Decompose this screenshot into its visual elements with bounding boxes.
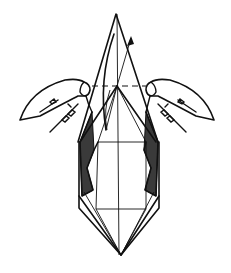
center-crease bbox=[117, 14, 119, 255]
origami-diagram bbox=[0, 0, 231, 273]
right-knuckle-mark bbox=[165, 104, 168, 107]
right-knuckles bbox=[161, 110, 174, 122]
left-knuckle-mark bbox=[68, 104, 71, 107]
crease-inner-left bbox=[106, 86, 117, 130]
left-hand bbox=[20, 79, 92, 132]
layer-left-1 bbox=[79, 196, 121, 255]
crease-left bbox=[98, 86, 117, 142]
left-knuckles bbox=[62, 110, 75, 122]
diagram-canvas bbox=[0, 0, 231, 273]
layer-right-3 bbox=[121, 209, 146, 255]
right-hand bbox=[146, 79, 214, 132]
layer-right-1 bbox=[121, 196, 159, 255]
flap-curve bbox=[103, 34, 114, 130]
arrow-head-icon bbox=[127, 36, 134, 46]
inner-left-edge bbox=[96, 142, 98, 209]
